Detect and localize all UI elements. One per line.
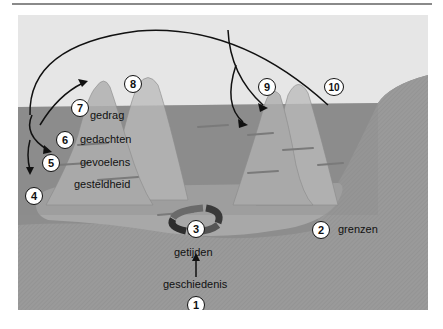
label-gedrag: gedrag bbox=[90, 110, 124, 121]
label-grenzen: grenzen bbox=[338, 224, 378, 235]
top-rule bbox=[12, 3, 432, 5]
marker-10: 10 bbox=[324, 78, 344, 96]
label-geschiedenis: geschiedenis bbox=[163, 279, 227, 290]
marker-1: 1 bbox=[187, 296, 205, 310]
marker-3: 3 bbox=[187, 220, 205, 238]
marker-7: 7 bbox=[71, 99, 89, 117]
marker-2: 2 bbox=[312, 221, 330, 239]
label-gevoelens: gevoelens bbox=[80, 157, 130, 168]
marker-6: 6 bbox=[56, 131, 74, 149]
marker-5: 5 bbox=[42, 154, 60, 172]
marker-4: 4 bbox=[25, 187, 43, 205]
label-getijden: getijden bbox=[174, 247, 213, 258]
label-gesteldheid: gesteldheid bbox=[74, 179, 130, 190]
marker-9: 9 bbox=[258, 78, 276, 96]
marker-8: 8 bbox=[124, 75, 142, 93]
water-overlay bbox=[18, 103, 378, 215]
label-gedachten: gedachten bbox=[80, 134, 131, 145]
iceberg-diagram: gedrag gedachten gevoelens gesteldheid g… bbox=[18, 15, 428, 310]
